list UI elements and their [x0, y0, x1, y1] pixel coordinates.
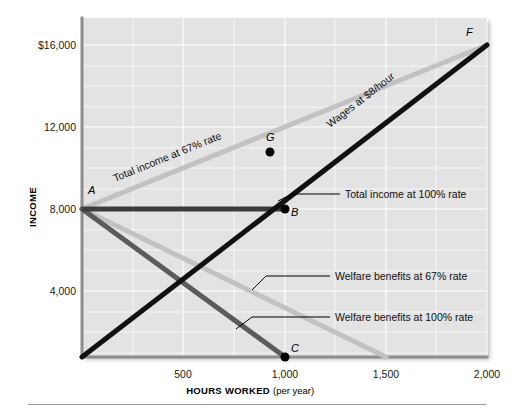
x-tick-label-1000: 1,000 — [272, 368, 298, 380]
y-tick-label-16000: $16,000 — [38, 39, 76, 51]
series-annotation-welfare-67: Welfare benefits at 67% rate — [335, 270, 467, 282]
series-annotation-total-income-100: Total income at 100% rate — [345, 188, 467, 200]
y-tick-label-4000: 4,000 — [50, 285, 76, 297]
data-point-c — [281, 353, 290, 362]
x-tick-label-2000: 2,000 — [474, 368, 500, 380]
x-axis-title-sub: (per year) — [273, 385, 314, 396]
data-point-b — [281, 205, 290, 214]
y-axis-title: INCOME — [27, 187, 38, 227]
point-label-c: C — [291, 342, 299, 354]
footer-divider — [28, 404, 486, 405]
y-tick-label-12000: 12,000 — [44, 121, 76, 133]
series-annotation-welfare-100: Welfare benefits at 100% rate — [335, 311, 473, 323]
point-label-b: B — [291, 206, 298, 218]
y-tick-label-8000: 8,000 — [50, 203, 76, 215]
x-axis-title-bold: HOURS WORKED — [186, 385, 270, 396]
point-label-g: G — [266, 131, 275, 143]
point-label-a: A — [87, 184, 95, 196]
x-tick-label-500: 500 — [174, 368, 192, 380]
data-point-g — [266, 148, 275, 157]
chart-canvas: A B C F G Total income at 67% rate Wages… — [0, 0, 512, 416]
figure-container: A B C F G Total income at 67% rate Wages… — [0, 0, 512, 416]
x-tick-label-1500: 1,500 — [373, 368, 399, 380]
